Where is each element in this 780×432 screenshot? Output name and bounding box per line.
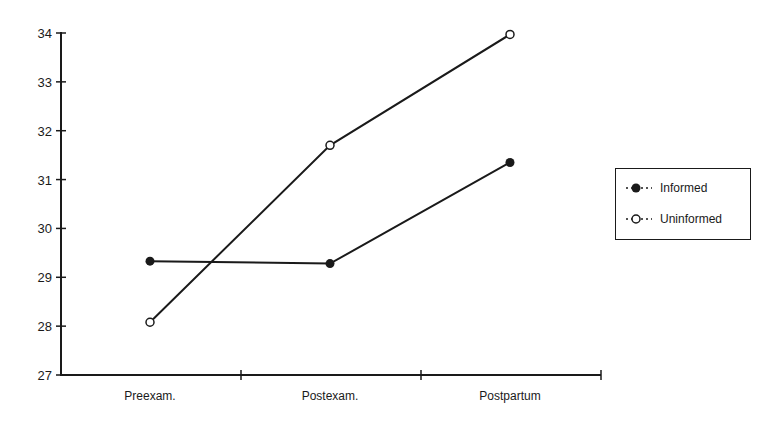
y-tick-label: 34 [38,26,52,41]
y-tick-label: 29 [38,270,52,285]
open-circle-marker-icon [326,141,334,149]
y-tick-label: 27 [38,368,52,383]
series-layer [146,30,515,326]
y-tick-label: 32 [38,124,52,139]
y-axis: 2728293031323334 [38,26,66,383]
legend: Informed Uninformed [615,168,751,240]
legend-label: Uninformed [660,212,722,226]
legend-item-uninformed: Uninformed [624,212,722,226]
x-category-label: Postpartum [479,389,540,403]
y-tick-label: 28 [38,319,52,334]
filled-circle-marker-icon [326,259,335,268]
filled-circle-marker-icon [506,158,515,167]
open-circle-marker-icon [506,30,514,38]
x-category-label: Preexam. [124,389,175,403]
y-tick-label: 30 [38,221,52,236]
series-line [150,162,510,263]
y-tick-label: 33 [38,75,52,90]
open-circle-marker-icon [624,213,654,225]
legend-label: Informed [660,181,707,195]
x-axis: Preexam.Postexam.Postpartum [61,370,601,403]
series-informed [146,158,515,268]
series-uninformed [146,30,514,326]
open-circle-marker-icon [146,318,154,326]
series-line [150,34,510,322]
x-category-label: Postexam. [302,389,359,403]
filled-circle-marker-icon [146,257,155,266]
legend-item-informed: Informed [624,181,707,195]
y-tick-label: 31 [38,173,52,188]
filled-circle-marker-icon [624,182,654,194]
